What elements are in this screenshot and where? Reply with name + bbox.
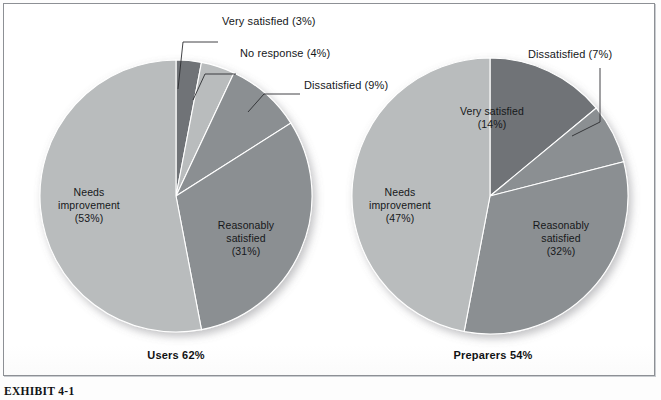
pie-caption-users: Users 62% (116, 349, 236, 361)
callout-preparers-dissatisfied: Dissatisfied (7%) (528, 48, 612, 61)
exhibit-page: Needs improvement (53%) Reasonably satis… (0, 0, 661, 400)
callout-users-very-satisfied: Very satisfied (3%) (222, 15, 316, 28)
exhibit-caption: EXHIBIT 4-1 (4, 385, 75, 397)
callout-users-no-response: No response (4%) (240, 47, 330, 60)
pie-caption-preparers: Preparers 54% (428, 349, 558, 361)
callout-users-dissatisfied: Dissatisfied (9%) (304, 79, 388, 92)
